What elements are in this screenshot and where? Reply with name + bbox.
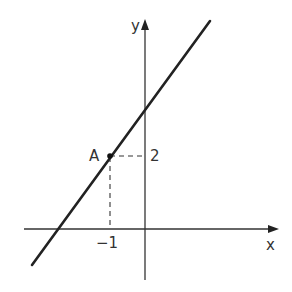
x-axis-label: x [266,236,275,254]
y-axis-arrowhead [141,19,149,30]
x-tick-label: −1 [96,234,118,252]
graph: y x A 2 −1 [0,0,292,292]
y-tick-label: 2 [150,147,160,165]
point-a-label: A [89,147,100,165]
x-axis-arrowhead [268,225,279,233]
point-a [107,153,113,159]
y-axis-label: y [131,17,140,35]
